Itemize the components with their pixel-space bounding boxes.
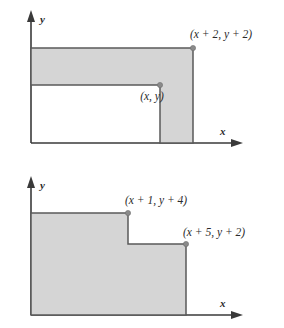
vertex-dot-inner-corner (157, 82, 162, 87)
y-axis-arrow-icon (27, 176, 35, 188)
vertex-dot-lower-step (183, 241, 188, 246)
shaded-region-top (31, 48, 193, 143)
x-axis-label: x (219, 125, 226, 137)
x-axis-arrow-icon (231, 139, 243, 147)
label-upper-step-vertex: (x + 1, y + 4) (125, 194, 187, 207)
vertex-dot-upper-step (125, 210, 130, 215)
y-axis-arrow-icon (27, 10, 35, 22)
label-lower-step-vertex: (x + 5, y + 2) (183, 226, 245, 239)
label-upper-right-vertex: (x + 2, y + 2) (190, 28, 252, 41)
vertex-dot-upper-right (190, 45, 195, 50)
top-figure: y x (x + 2, y + 2) (x, y) (0, 0, 284, 164)
shaded-region-bottom (31, 213, 186, 315)
y-axis-label: y (38, 179, 45, 191)
x-axis-label: x (219, 297, 226, 309)
y-axis-label: y (38, 13, 45, 25)
x-axis-arrow-icon (231, 311, 243, 319)
label-inner-corner-vertex: (x, y) (140, 90, 164, 103)
bottom-figure: y x (x + 1, y + 4) (x + 5, y + 2) (0, 164, 284, 328)
